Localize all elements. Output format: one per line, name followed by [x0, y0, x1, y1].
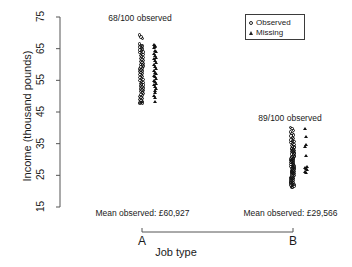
y-tick-label: 75 [35, 5, 46, 29]
y-tick-label: 45 [35, 100, 46, 124]
data-point [293, 145, 296, 148]
y-tick-label: 35 [35, 131, 46, 155]
data-point [304, 154, 308, 157]
group-b-mean-label: Mean observed: £29,566 [228, 208, 352, 218]
legend[interactable]: Observed Missing [245, 14, 305, 40]
y-axis-title: Income (thousand pounds) [21, 31, 33, 201]
y-tick-label: 15 [35, 195, 46, 219]
data-point [304, 135, 308, 138]
scatter-plot-canvas [0, 0, 352, 267]
data-point [303, 145, 307, 148]
data-point [304, 171, 308, 174]
circle-marker-icon [249, 21, 253, 25]
group-b-observed-count: 89/100 observed [235, 113, 345, 123]
x-tick-label-a: A [132, 234, 152, 248]
y-tick-label: 65 [35, 36, 46, 60]
group-a-mean-label: Mean observed: £60,927 [80, 208, 205, 218]
data-point [303, 127, 307, 130]
group-a-observed-count: 68/100 observed [85, 13, 195, 23]
legend-item-missing[interactable]: Missing [249, 28, 283, 37]
data-point [153, 100, 157, 103]
legend-label-observed: Observed [256, 18, 291, 27]
legend-item-observed[interactable]: Observed [249, 18, 291, 27]
data-point [292, 177, 295, 180]
triangle-marker-icon [249, 31, 253, 35]
data-point [290, 170, 293, 173]
legend-label-missing: Missing [256, 28, 283, 37]
x-tick-label-b: B [283, 234, 303, 248]
y-tick-label: 25 [35, 163, 46, 187]
y-tick-label: 55 [35, 68, 46, 92]
